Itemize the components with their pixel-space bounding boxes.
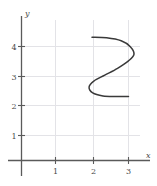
x-tick-label-2: 2	[91, 167, 96, 176]
y-tick-label-2: 2	[11, 102, 16, 111]
vertical-gridlines	[56, 20, 129, 160]
y-axis-label: y	[24, 9, 30, 18]
x-tick-label-3: 3	[126, 167, 131, 176]
coordinate-plane: 1 2 3 4 1 2 3 y x	[0, 0, 157, 186]
y-tick-label-4: 4	[11, 43, 16, 52]
y-tick-label-1: 1	[11, 132, 16, 141]
x-axis-label: x	[146, 151, 151, 160]
graph-figure: 1 2 3 4 1 2 3 y x	[0, 0, 157, 186]
x-tick-label-1: 1	[53, 167, 58, 176]
horizontal-gridlines	[21, 47, 140, 136]
y-tick-label-3: 3	[11, 73, 16, 82]
